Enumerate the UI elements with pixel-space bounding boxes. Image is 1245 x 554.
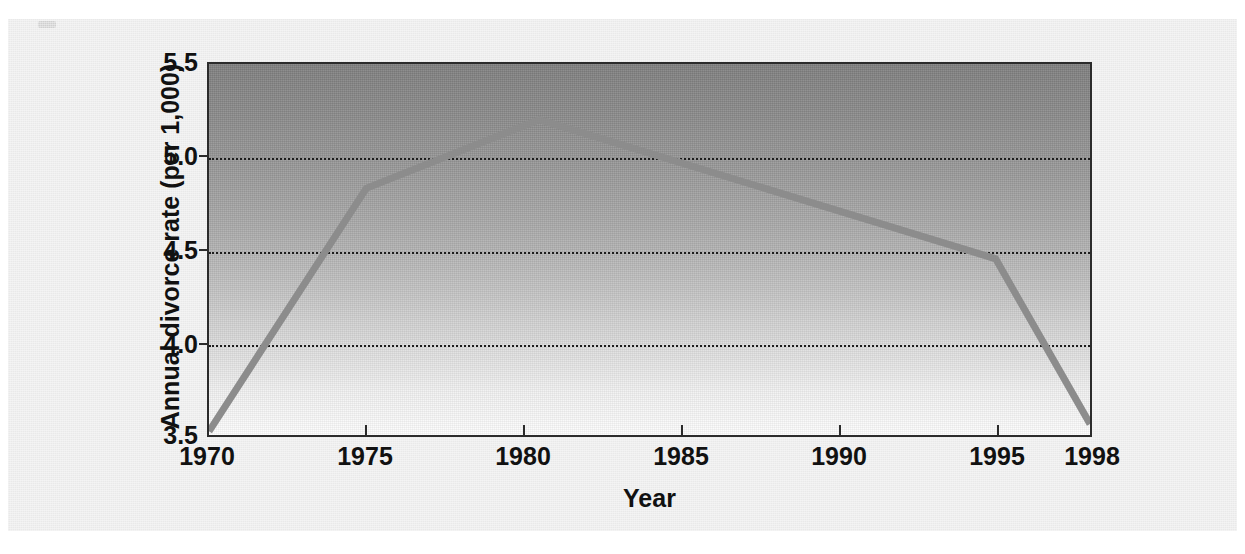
- x-tick-label-1970: 1970: [179, 442, 235, 471]
- x-tick-label-1995: 1995: [969, 442, 1025, 471]
- y-axis-title: Annual divorce rate (per 1,000): [156, 37, 185, 457]
- x-tick-label-1990: 1990: [811, 442, 867, 471]
- x-tick-mark-1985: [681, 425, 683, 437]
- chart-figure: 5.5 5.0 4.5 4.0 3.5 Annual divorce rate …: [0, 0, 1245, 554]
- x-tick-mark-1980: [523, 425, 525, 437]
- plot-area: [207, 62, 1092, 437]
- x-tick-mark-1975: [365, 425, 367, 437]
- x-tick-mark-1995: [997, 425, 999, 437]
- x-tick-label-1980: 1980: [495, 442, 551, 471]
- x-tick-mark-1990: [839, 425, 841, 437]
- chart-area: 5.5 5.0 4.5 4.0 3.5 Annual divorce rate …: [0, 0, 1245, 554]
- x-tick-label-1975: 1975: [337, 442, 393, 471]
- divorce-rate-line: [209, 64, 1090, 435]
- x-axis-title: Year: [207, 484, 1092, 513]
- x-tick-label-1985: 1985: [653, 442, 709, 471]
- x-tick-label-1998: 1998: [1064, 442, 1120, 471]
